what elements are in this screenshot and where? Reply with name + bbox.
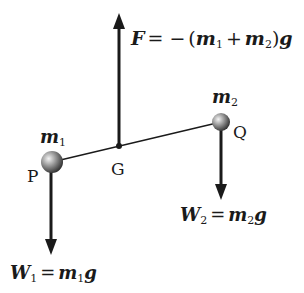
g-symbol: g — [84, 262, 97, 283]
G-text: G — [111, 159, 125, 179]
equals-sign: = — [148, 27, 164, 49]
force-W1-label: W1=m1g — [10, 264, 97, 284]
m1-symbol: m — [196, 27, 216, 49]
force-W2-arrowhead-icon — [215, 184, 227, 200]
W-symbol: W — [10, 262, 30, 283]
point-Q-label: Q — [233, 124, 247, 141]
m-symbol: m — [228, 204, 247, 225]
point-P-label: P — [27, 168, 38, 185]
center-of-mass-dot — [116, 143, 122, 149]
mass-P-ball — [41, 151, 63, 173]
point-G-label: G — [111, 161, 125, 178]
m-symbol: m — [212, 86, 231, 107]
minus-sign: − — [169, 27, 185, 49]
force-F-arrowhead-icon — [113, 13, 125, 29]
W-subscript: 1 — [30, 272, 37, 285]
open-paren: ( — [188, 27, 195, 49]
equals-sign: = — [210, 204, 225, 225]
rigid-body-diagram: F=−(m1+m2)g m1 P G m2 Q W2=m2g W1=m1g — [0, 0, 304, 293]
W-symbol: W — [180, 204, 200, 225]
m-subscript: 1 — [59, 136, 66, 149]
m-symbol: m — [58, 262, 77, 283]
rod-line — [52, 122, 221, 162]
force-W2-label: W2=m2g — [180, 206, 267, 226]
force-F-label: F=−(m1+m2)g — [131, 29, 293, 50]
plus-sign: + — [226, 27, 242, 49]
m-subscript: 2 — [231, 96, 238, 109]
m1-subscript: 1 — [216, 38, 223, 51]
F-symbol: F — [131, 27, 145, 49]
P-text: P — [27, 166, 38, 186]
g-symbol: g — [279, 27, 292, 49]
m2-symbol: m — [245, 27, 265, 49]
mass-m2-label: m2 — [212, 88, 238, 108]
m-symbol: m — [40, 126, 59, 147]
mass-m1-label: m1 — [40, 128, 66, 148]
m2-subscript: 2 — [265, 38, 272, 51]
g-symbol: g — [254, 204, 267, 225]
equals-sign: = — [40, 262, 55, 283]
mass-Q-ball — [212, 113, 230, 131]
Q-text: Q — [233, 122, 247, 142]
W-subscript: 2 — [200, 214, 207, 227]
force-W1-arrowhead-icon — [45, 239, 57, 255]
